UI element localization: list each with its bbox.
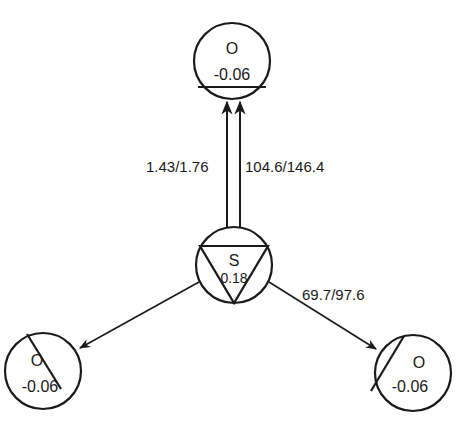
edge-label-bottom-right: 69.7/97.6 xyxy=(302,286,365,303)
edge-center-to-bottom-left xyxy=(80,282,199,348)
node-center-value: 0.18 xyxy=(220,270,247,286)
node-center: S 0.18 xyxy=(196,227,272,303)
node-bottom-left-value: -0.06 xyxy=(22,378,59,395)
edge-label-right: 104.6/146.4 xyxy=(245,158,324,175)
edge-label-left: 1.43/1.76 xyxy=(146,158,209,175)
node-center-label: S xyxy=(229,252,240,269)
node-top: O -0.06 xyxy=(194,23,270,99)
node-bottom-right-label: O xyxy=(413,354,425,371)
node-bottom-right-value: -0.06 xyxy=(392,378,429,395)
bond-diagram: 1.43/1.76 104.6/146.4 69.7/97.6 O -0.06 … xyxy=(0,0,465,435)
node-bottom-right: O -0.06 xyxy=(371,335,451,411)
node-top-label: O xyxy=(226,40,238,57)
edge-center-to-top xyxy=(227,102,240,228)
node-bottom-left: O -0.06 xyxy=(5,333,81,409)
node-top-value: -0.06 xyxy=(214,66,251,83)
node-bottom-left-label: O xyxy=(31,352,43,369)
